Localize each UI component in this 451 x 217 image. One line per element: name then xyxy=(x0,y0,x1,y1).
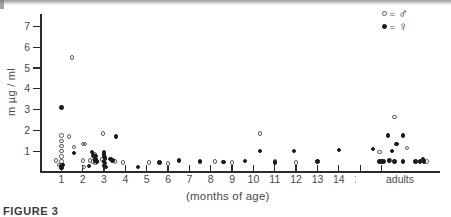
data-point-female xyxy=(387,158,391,162)
data-point-female xyxy=(95,159,99,163)
data-point-male xyxy=(59,149,63,153)
x-axis-tick-label: 8 xyxy=(201,174,221,185)
data-point-female xyxy=(394,142,398,146)
data-point-female xyxy=(292,149,296,153)
data-point-female xyxy=(401,159,405,163)
x-axis-tick-label: 9 xyxy=(222,174,242,185)
y-axis-tick xyxy=(33,67,40,68)
data-point-male xyxy=(392,115,396,119)
legend-equals-sign: = xyxy=(390,9,396,19)
data-point-male xyxy=(59,144,63,148)
legend-equals-sign: = xyxy=(390,22,396,32)
x-axis-tick-label: 12 xyxy=(286,174,306,185)
data-point-male xyxy=(72,145,76,149)
data-point-female xyxy=(243,159,247,163)
data-point-male xyxy=(121,160,125,164)
y-axis-title: m µg / ml xyxy=(5,57,17,127)
y-axis-tick-label: 6 xyxy=(8,42,30,53)
data-point-female xyxy=(177,158,181,162)
data-point-male xyxy=(147,160,151,164)
data-point-male xyxy=(82,165,86,169)
data-point-female xyxy=(258,149,262,153)
legend-item: =♀ xyxy=(382,20,444,33)
x-axis-tick-label: 7 xyxy=(179,174,199,185)
data-point-female xyxy=(386,133,390,137)
open-circle-icon xyxy=(382,11,387,16)
data-point-female xyxy=(72,151,76,155)
data-point-male xyxy=(83,142,87,146)
figure-scatter-plot: 1234567 12345678910111213141516 m µg / m… xyxy=(0,0,451,217)
data-point-male xyxy=(59,133,63,137)
figure-caption: FIGURE 3 xyxy=(3,205,59,217)
data-point-female xyxy=(390,149,394,153)
x-axis-tick-label: 14 xyxy=(329,174,349,185)
y-axis-tick xyxy=(33,88,40,89)
adults-label: adults xyxy=(356,173,444,186)
data-point-female xyxy=(315,159,319,163)
data-point-male xyxy=(230,160,234,164)
data-point-female xyxy=(59,105,63,109)
x-axis-tick-label: 6 xyxy=(158,174,178,185)
data-point-female xyxy=(371,147,375,151)
x-axis-tick-label: 1 xyxy=(51,174,71,185)
y-axis-tick xyxy=(33,47,40,48)
data-point-female xyxy=(273,160,277,164)
x-axis-tick-label: 13 xyxy=(307,174,327,185)
data-point-male xyxy=(81,158,85,162)
x-axis-tick-label: 5 xyxy=(137,174,157,185)
data-point-female xyxy=(104,165,108,169)
data-point-male xyxy=(166,161,170,165)
x-axis-title: (months of age) xyxy=(186,190,270,202)
data-point-female xyxy=(221,160,225,164)
data-point-male xyxy=(213,159,217,163)
data-point-female xyxy=(157,160,161,164)
data-point-male xyxy=(67,134,71,138)
data-point-male xyxy=(258,131,262,135)
y-axis-tick xyxy=(33,151,40,152)
data-point-female xyxy=(87,164,91,168)
data-point-male xyxy=(59,139,63,143)
y-axis-tick xyxy=(33,109,40,110)
data-point-female xyxy=(110,158,114,162)
data-point-male xyxy=(294,160,298,164)
y-axis-tick-label: 1 xyxy=(8,146,30,157)
data-point-female xyxy=(136,165,140,169)
scan-artifact-band xyxy=(0,0,451,5)
adults-range-annotation: adults xyxy=(356,174,444,188)
y-axis-tick xyxy=(33,130,40,131)
x-axis-tick-label: 3 xyxy=(94,174,114,185)
x-axis-tick-label: 10 xyxy=(243,174,263,185)
scan-artifact-corner xyxy=(0,0,4,9)
data-point-male xyxy=(405,146,409,150)
data-point-male xyxy=(101,131,105,135)
data-point-female xyxy=(401,133,405,137)
legend-item: =♂ xyxy=(382,7,444,20)
data-point-female xyxy=(381,159,385,163)
data-point-female xyxy=(392,159,396,163)
filled-circle-icon xyxy=(382,24,387,29)
plot-area xyxy=(40,14,437,172)
data-point-female xyxy=(60,163,64,167)
x-axis-tick-label: 4 xyxy=(115,174,135,185)
data-point-female xyxy=(337,148,341,152)
legend: =♂=♀ xyxy=(382,7,444,33)
y-axis-tick xyxy=(33,26,40,27)
venus-symbol-icon: ♀ xyxy=(398,20,408,33)
data-point-male xyxy=(377,150,381,154)
data-point-female xyxy=(114,134,118,138)
data-point-male xyxy=(59,154,63,158)
x-axis-tick-label: 2 xyxy=(73,174,93,185)
x-axis-tick-label: 11 xyxy=(265,174,285,185)
data-point-male xyxy=(70,55,74,59)
y-axis-tick-label: 7 xyxy=(8,21,30,32)
data-point-female xyxy=(198,159,202,163)
